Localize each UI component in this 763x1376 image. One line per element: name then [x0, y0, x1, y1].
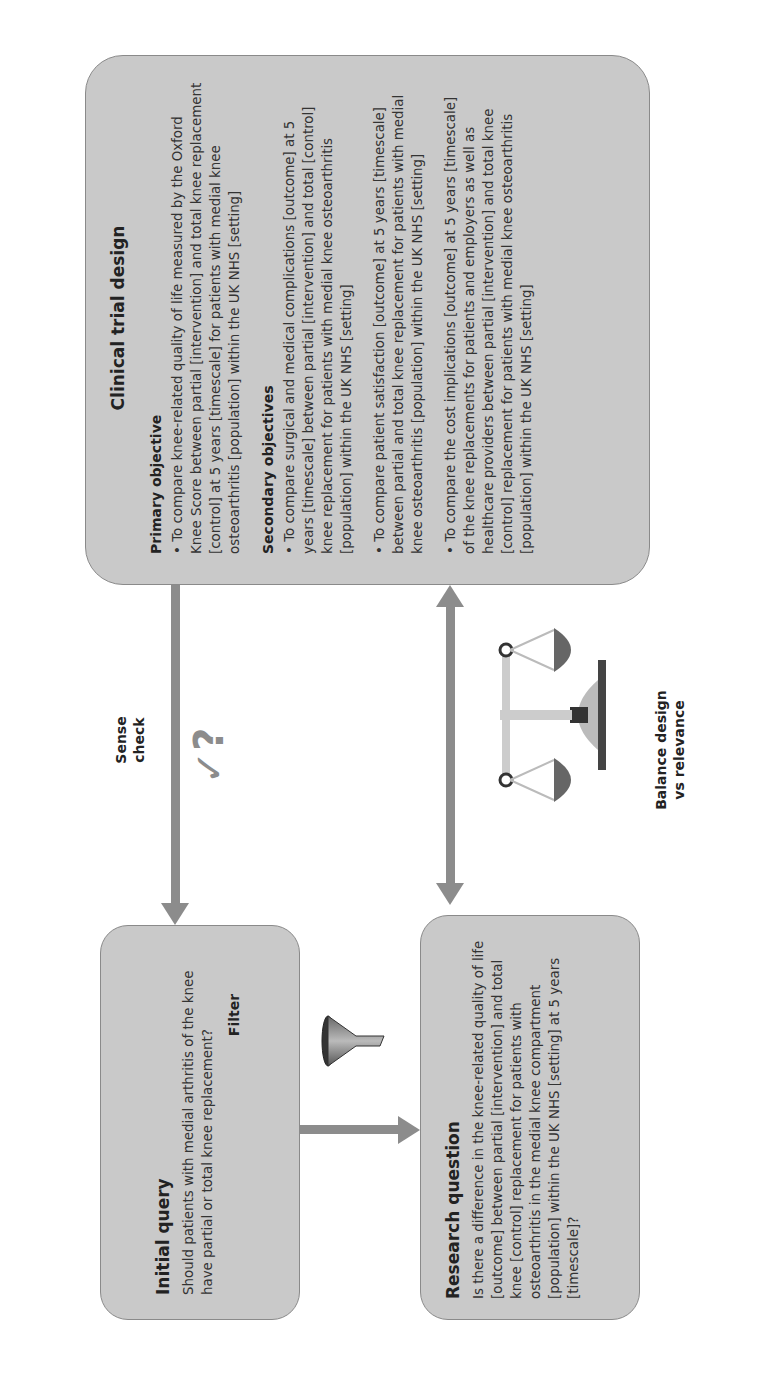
secondary-objectives-heading: Secondary objectives: [260, 82, 276, 554]
filter-arrow-head: [398, 1116, 420, 1144]
secondary-objective-1: • To compare surgical and medical compli…: [280, 82, 356, 554]
funnel-icon: [318, 1006, 388, 1076]
research-question-text: Is there a difference in the knee-relate…: [469, 934, 583, 1299]
balance-label: Balance design vs relevance: [652, 690, 688, 810]
initial-query-text: Should patients with medial arthritis of…: [179, 946, 217, 1295]
sense-check-arrow-shaft: [171, 585, 180, 905]
primary-objective-text: • To compare knee-related quality of lif…: [168, 82, 244, 554]
clinical-trial-design-box: Clinical trial design Primary objective …: [85, 55, 650, 585]
initial-query-box: Initial query Should patients with media…: [100, 925, 300, 1320]
balance-scale-icon: [480, 620, 620, 810]
secondary-objective-2: • To compare patient satisfaction [outco…: [370, 82, 427, 554]
secondary-objectives-section: Secondary objectives • To compare surgic…: [260, 82, 536, 554]
diagram-canvas: Initial query Should patients with media…: [0, 0, 763, 1376]
balance-arrow-head-left: [436, 883, 464, 905]
research-question-box: Research question Is there a difference …: [420, 915, 640, 1320]
primary-objective-section: Primary objective • To compare knee-rela…: [148, 82, 244, 554]
filter-label: Filter: [225, 990, 243, 1040]
initial-query-title: Initial query: [153, 946, 173, 1295]
balance-arrow-shaft: [446, 605, 455, 885]
sense-check-arrow-head: [161, 903, 189, 925]
primary-objective-heading: Primary objective: [148, 82, 164, 554]
check-question-icon: ✓?: [186, 696, 232, 816]
clinical-trial-design-title: Clinical trial design: [108, 82, 128, 554]
balance-arrow-head-right: [436, 585, 464, 607]
filter-arrow-shaft: [300, 1125, 400, 1134]
sense-check-label: Sense check: [112, 700, 148, 780]
secondary-objective-3: • To compare the cost implications [outc…: [441, 82, 536, 554]
research-question-title: Research question: [443, 934, 463, 1299]
